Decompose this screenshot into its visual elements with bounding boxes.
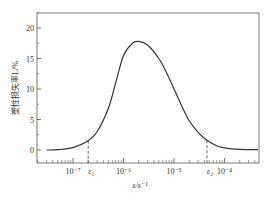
y-tick-label: 15	[26, 55, 34, 64]
y-axis-title: 塑性损失率L/%	[10, 61, 20, 115]
y-tick-label: 20	[26, 24, 34, 33]
data-line	[47, 41, 258, 150]
x-tick-label: 10⁻⁷	[65, 167, 80, 176]
annotations: ε₁ε₂	[88, 140, 213, 176]
x-tick-label: 10⁻⁵	[166, 167, 181, 176]
y-tick-label: 0	[30, 146, 34, 155]
x-tick-label: 10⁻⁴	[217, 167, 232, 176]
x-axis: 10⁻⁷10⁻⁶10⁻⁵10⁻⁴	[38, 158, 255, 176]
annotation-label: ε₂	[207, 167, 213, 176]
chart: 05101520 10⁻⁷10⁻⁶10⁻⁵10⁻⁴ ε₁ε₂ ε/s⁻¹ 塑性损…	[0, 0, 269, 203]
annotation-label: ε₁	[88, 167, 94, 176]
y-tick-label: 10	[26, 85, 34, 94]
y-axis: 05101520	[26, 13, 41, 155]
y-tick-label: 5	[30, 116, 34, 125]
x-axis-title: ε/s⁻¹	[132, 181, 148, 190]
x-tick-label: 10⁻⁶	[116, 167, 131, 176]
plot-frame	[37, 13, 259, 163]
